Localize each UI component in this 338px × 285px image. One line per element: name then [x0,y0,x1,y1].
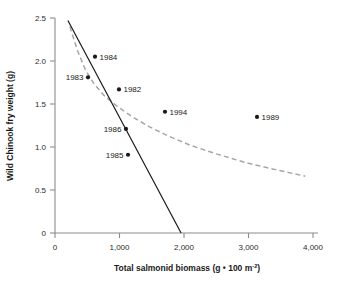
data-point [255,115,259,119]
y-tick-label: 0.5 [35,186,47,195]
data-point-label: 1985 [106,151,124,160]
y-axis-title: Wild Chinook fry weight (g) [5,71,15,181]
data-point-label: 1989 [262,113,280,122]
data-point [163,110,167,114]
data-point-label: 1994 [169,108,187,117]
data-point-label: 1982 [123,85,141,94]
data-point-label: 1986 [104,125,122,134]
x-axis-title-main: Total salmonid biomass (g • 100 m [114,263,253,273]
x-tick-label: 0 [53,243,58,252]
data-point [93,55,97,59]
x-axis-title-tail: ) [257,263,260,273]
data-point-label: 1984 [99,53,117,62]
data-point [117,87,121,91]
y-tick-label: 2.5 [35,14,47,23]
scatter-chart: 00.51.01.52.02.5 01,0002,0003,0004,000 1… [0,0,338,285]
data-point [86,75,90,79]
y-tick-label: 1.0 [35,143,47,152]
x-tick-label: 3,000 [238,243,259,252]
x-axis-title: Total salmonid biomass (g • 100 m-2) [114,263,260,273]
data-point [124,127,128,131]
data-point-label: 1983 [66,73,84,82]
x-tick-label: 4,000 [303,243,324,252]
x-tick-label: 2,000 [174,243,195,252]
y-tick-label: 0 [42,229,47,238]
y-tick-label: 1.5 [35,100,47,109]
data-point [126,153,130,157]
x-tick-label: 1,000 [109,243,130,252]
plot-background [0,0,338,285]
y-tick-label: 2.0 [35,57,47,66]
